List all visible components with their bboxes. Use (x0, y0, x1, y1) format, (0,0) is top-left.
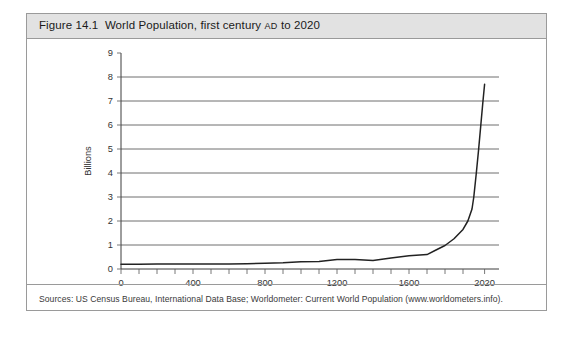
x-tick-label: 800 (257, 278, 273, 287)
x-tick-label: 400 (185, 278, 201, 287)
figure-title-suffix: to 2020 (281, 19, 320, 31)
figure-title: Figure 14.1 World Population, first cent… (39, 19, 320, 31)
source-note: Sources: US Census Bureau, International… (39, 294, 503, 304)
population-line-chart: 01234567890400800120016002020Billions (27, 39, 546, 287)
figure-title-text: World Population, first century (105, 19, 261, 31)
y-tick-label: 2 (108, 216, 113, 226)
plot-region: 01234567890400800120016002020Billions (27, 39, 546, 287)
y-tick-label: 6 (108, 120, 113, 130)
figure-title-era: AD (264, 21, 277, 31)
y-axis-title: Billions (83, 146, 93, 176)
y-tick-label: 4 (108, 168, 113, 178)
y-tick-label: 8 (108, 72, 113, 82)
figure-titlebar: Figure 14.1 World Population, first cent… (27, 14, 546, 39)
y-tick-label: 0 (108, 264, 113, 274)
y-tick-label: 7 (108, 96, 113, 106)
x-tick-label: 2020 (474, 278, 495, 287)
data-series-line (121, 84, 485, 264)
figure-frame: Figure 14.1 World Population, first cent… (26, 13, 547, 311)
figure-title-prefix: Figure 14.1 (39, 19, 98, 31)
y-tick-label: 9 (108, 48, 113, 58)
source-separator (27, 284, 546, 285)
y-tick-label: 3 (108, 192, 113, 202)
x-tick-label: 1600 (399, 278, 420, 287)
x-tick-label: 1200 (327, 278, 348, 287)
x-tick-label: 0 (118, 278, 123, 287)
y-tick-label: 5 (108, 144, 113, 154)
y-tick-label: 1 (108, 240, 113, 250)
